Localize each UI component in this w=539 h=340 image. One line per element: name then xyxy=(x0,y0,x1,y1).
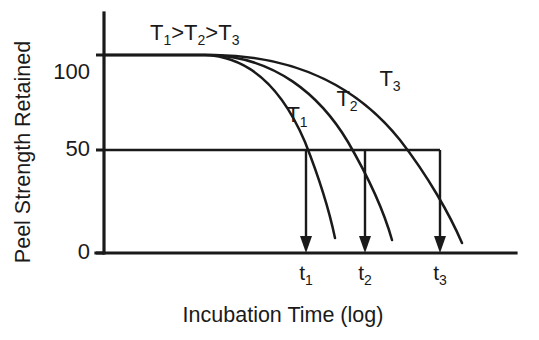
x-tick-label-t3-sub: 3 xyxy=(439,272,447,288)
y-axis-title: Peel Strength Retained xyxy=(11,41,35,263)
y-tick-label-50: 50 xyxy=(66,136,90,161)
x-tick-label-t1-sub: 1 xyxy=(305,272,313,288)
annotation-temperature-order: T1>T2>T3 xyxy=(150,20,240,48)
annotation-T2-base: T xyxy=(184,20,197,45)
curve-label-T2-base: T xyxy=(336,86,349,111)
peel-strength-chart: 0 50 100 Peel Strength Retained Incubati… xyxy=(0,0,539,340)
annotation-T3-base: T xyxy=(218,20,231,45)
curve-label-T2-sub: 2 xyxy=(350,98,358,114)
chart-background xyxy=(0,0,539,340)
annotation-T1-base: T xyxy=(150,20,163,45)
y-tick-label-100: 100 xyxy=(53,59,90,84)
curve-label-T1-sub: 1 xyxy=(300,114,308,130)
x-axis-title: Incubation Time (log) xyxy=(183,303,384,327)
chart-figure: 0 50 100 Peel Strength Retained Incubati… xyxy=(0,0,539,340)
annotation-T2-sub: 2 xyxy=(198,32,206,48)
curve-label-T3-base: T xyxy=(379,66,392,91)
y-tick-label-0: 0 xyxy=(78,239,90,264)
annotation-gt-2: > xyxy=(205,20,218,45)
x-tick-label-t2-sub: 2 xyxy=(364,272,372,288)
curve-label-T1-base: T xyxy=(286,102,299,127)
annotation-gt-1: > xyxy=(171,20,184,45)
annotation-T1-sub: 1 xyxy=(163,32,171,48)
curve-label-T3-sub: 3 xyxy=(393,78,401,94)
annotation-T3-sub: 3 xyxy=(232,32,240,48)
